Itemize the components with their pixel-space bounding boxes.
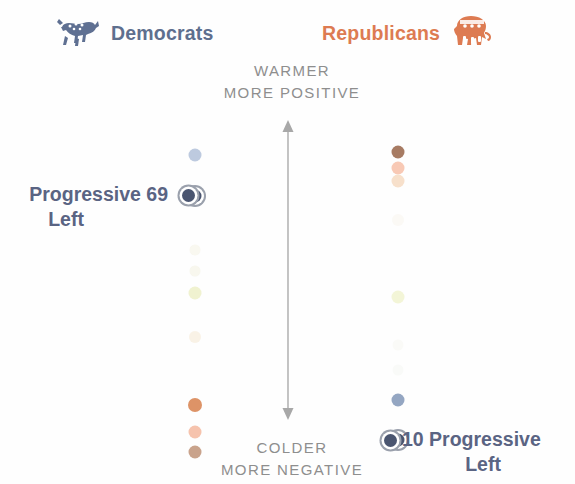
data-point[interactable] bbox=[189, 149, 202, 162]
callout-right-line1: 10 Progressive bbox=[402, 428, 541, 450]
data-point[interactable] bbox=[189, 287, 202, 300]
data-point[interactable] bbox=[392, 162, 405, 175]
data-point[interactable] bbox=[189, 426, 202, 439]
axis-label-warm-line1: WARMER bbox=[192, 60, 392, 82]
data-point[interactable] bbox=[190, 245, 201, 256]
axis-label-cold: COLDER MORE NEGATIVE bbox=[192, 437, 392, 481]
callout-left-line2: Left bbox=[8, 207, 168, 232]
axis-label-cold-line1: COLDER bbox=[192, 437, 392, 459]
data-point[interactable] bbox=[392, 146, 405, 159]
callout-marker-left[interactable] bbox=[182, 189, 195, 202]
data-point[interactable] bbox=[190, 266, 201, 277]
data-point[interactable] bbox=[392, 175, 405, 188]
axis-label-warm-line2: MORE POSITIVE bbox=[192, 82, 392, 104]
callout-marker-right[interactable] bbox=[384, 434, 397, 447]
data-point[interactable] bbox=[393, 365, 404, 376]
chart-canvas: Democrats Republicans bbox=[0, 0, 575, 484]
dot-column-republicans bbox=[378, 0, 418, 484]
dot-column-democrats bbox=[175, 0, 215, 484]
data-point[interactable] bbox=[189, 331, 201, 343]
callout-right-line2: Left bbox=[402, 452, 572, 477]
legend: Democrats Republicans bbox=[0, 12, 575, 54]
data-point[interactable] bbox=[392, 394, 405, 407]
data-point[interactable] bbox=[393, 340, 404, 351]
data-point[interactable] bbox=[188, 398, 202, 412]
donkey-icon bbox=[56, 14, 102, 52]
data-point[interactable] bbox=[392, 214, 404, 226]
vertical-double-arrow-icon bbox=[278, 120, 298, 424]
callout-left-line1: Progressive 69 bbox=[29, 183, 168, 205]
data-point[interactable] bbox=[189, 446, 202, 459]
callout-progressive-left-democrats: Progressive 69 Left bbox=[8, 182, 168, 232]
axis-label-cold-line2: MORE NEGATIVE bbox=[192, 459, 392, 481]
callout-progressive-left-republicans: 10 Progressive Left bbox=[402, 427, 572, 477]
elephant-icon bbox=[449, 12, 495, 54]
data-point[interactable] bbox=[392, 291, 405, 304]
axis-label-warm: WARMER MORE POSITIVE bbox=[192, 60, 392, 104]
